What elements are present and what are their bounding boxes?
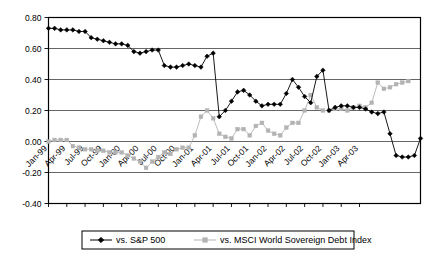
legend-label: vs. S&P 500 — [116, 235, 165, 245]
y-tick-label: 0.20 — [25, 106, 42, 116]
data-point — [126, 154, 130, 158]
data-point — [107, 40, 112, 45]
data-point — [345, 104, 350, 109]
line-chart: 0.800.600.400.200.00-0.20-0.40 Jan-99Apr… — [0, 0, 436, 259]
data-point — [321, 109, 325, 113]
x-tick-label: Apr-03 — [335, 143, 360, 168]
data-point — [235, 90, 240, 95]
data-point — [370, 101, 374, 105]
x-tick-label: Apr-02 — [262, 143, 287, 168]
data-point — [236, 127, 240, 131]
data-point — [388, 131, 393, 136]
data-point — [71, 144, 75, 148]
data-point — [119, 42, 124, 47]
data-point — [284, 91, 289, 96]
data-point — [138, 160, 142, 164]
data-point — [229, 99, 234, 104]
data-point — [406, 155, 411, 160]
y-tick-label: 0.60 — [25, 44, 42, 54]
data-point — [101, 149, 105, 153]
data-point — [297, 121, 301, 125]
data-point — [291, 121, 295, 125]
data-point — [394, 82, 398, 86]
chart-container: 0.800.600.400.200.00-0.20-0.40 Jan-99Apr… — [0, 0, 436, 259]
data-point — [303, 109, 307, 113]
data-point — [156, 155, 160, 159]
data-point — [169, 152, 173, 156]
x-tick-label: Apr-99 — [42, 143, 67, 168]
data-point — [47, 140, 51, 144]
data-point — [181, 146, 185, 150]
y-tick-label: 0.80 — [25, 13, 42, 23]
data-point — [382, 87, 386, 91]
y-tick-label: -0.20 — [22, 168, 42, 178]
data-point — [101, 38, 106, 43]
data-point — [388, 85, 392, 89]
legend-marker — [203, 238, 207, 242]
data-point — [83, 147, 87, 151]
data-point — [162, 150, 166, 154]
data-point — [272, 102, 277, 107]
data-point — [108, 150, 112, 154]
data-point — [412, 153, 417, 158]
x-tick-label: Apr-01 — [188, 143, 213, 168]
data-point — [376, 81, 380, 85]
data-point — [186, 62, 191, 67]
data-point — [284, 126, 288, 130]
data-point — [95, 37, 100, 42]
data-point — [64, 28, 69, 33]
data-point — [266, 129, 270, 133]
data-point — [138, 51, 143, 56]
chart-legend: vs. S&P 500vs. MSCI World Sovereign Debt… — [82, 231, 372, 249]
data-point — [199, 115, 203, 119]
y-axis-tick-labels: 0.800.600.400.200.00-0.20-0.40 — [22, 13, 42, 209]
data-point — [315, 106, 319, 110]
data-point — [175, 147, 179, 151]
data-point — [65, 138, 69, 142]
data-point — [174, 65, 179, 70]
data-point — [248, 133, 252, 137]
data-point — [144, 166, 148, 170]
data-point — [187, 146, 191, 150]
data-point — [211, 51, 216, 56]
data-point — [278, 102, 283, 107]
data-point — [180, 63, 185, 68]
data-point — [120, 150, 124, 154]
data-point — [144, 49, 149, 54]
data-point — [71, 28, 76, 33]
data-point — [168, 65, 173, 70]
data-point — [199, 65, 204, 70]
data-point — [113, 42, 118, 47]
data-point — [132, 157, 136, 161]
data-point — [400, 155, 405, 160]
series-sp500 — [46, 26, 423, 159]
data-point — [418, 136, 423, 141]
data-point — [114, 150, 118, 154]
data-point — [217, 132, 221, 136]
y-tick-label: 0.40 — [25, 75, 42, 85]
data-point — [53, 138, 57, 142]
series-line — [49, 28, 421, 157]
data-point — [394, 153, 399, 158]
data-point — [278, 133, 282, 137]
y-tick-label: -0.40 — [22, 199, 42, 209]
data-point — [205, 109, 209, 113]
data-point — [193, 133, 197, 137]
data-point — [272, 132, 276, 136]
data-point — [242, 127, 246, 131]
data-point — [95, 149, 99, 153]
data-point — [254, 124, 258, 128]
data-point — [266, 102, 271, 107]
data-point — [77, 146, 81, 150]
data-point — [150, 160, 154, 164]
data-point — [89, 147, 93, 151]
data-point — [77, 29, 82, 34]
data-point — [376, 111, 381, 116]
data-point — [52, 26, 57, 31]
data-point — [46, 26, 51, 31]
data-point — [406, 79, 410, 83]
data-point — [162, 63, 167, 68]
legend-label: vs. MSCI World Sovereign Debt Index — [220, 235, 372, 245]
data-point — [223, 135, 227, 139]
data-point — [205, 54, 210, 59]
